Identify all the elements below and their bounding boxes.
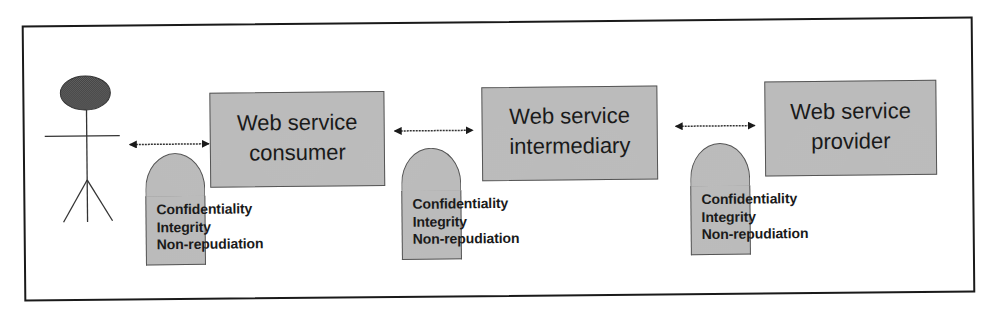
security-shield-consumer: Confidentiality Integrity Non-repudiatio… bbox=[145, 153, 206, 266]
security-properties: Confidentiality Integrity Non-repudiatio… bbox=[701, 190, 808, 244]
diagram-canvas: Web service consumer Web service interme… bbox=[0, 0, 999, 319]
arrow-intermediary-provider bbox=[676, 126, 755, 127]
property-integrity: Integrity bbox=[157, 218, 264, 237]
diagram-stage: Web service consumer Web service interme… bbox=[0, 0, 999, 319]
node-label-line: intermediary bbox=[509, 131, 630, 162]
node-label-line: provider bbox=[790, 126, 911, 157]
shield-icon bbox=[690, 143, 750, 188]
actor-right-leg bbox=[87, 180, 112, 221]
security-properties: Confidentiality Integrity Non-repudiatio… bbox=[412, 195, 519, 249]
actor-body bbox=[87, 110, 88, 222]
security-shield-provider: Confidentiality Integrity Non-repudiatio… bbox=[690, 143, 751, 256]
property-confidentiality: Confidentiality bbox=[412, 195, 519, 214]
property-confidentiality: Confidentiality bbox=[701, 190, 808, 209]
actor-left-leg bbox=[63, 180, 87, 222]
arrow-consumer-intermediary bbox=[395, 130, 473, 131]
property-integrity: Integrity bbox=[701, 208, 808, 227]
security-properties: Confidentiality Integrity Non-repudiatio… bbox=[156, 200, 263, 254]
property-confidentiality: Confidentiality bbox=[156, 200, 263, 219]
arrow-user-consumer bbox=[130, 144, 209, 145]
node-web-service-intermediary: Web service intermediary bbox=[481, 85, 658, 181]
actor-head bbox=[60, 76, 110, 110]
node-label-line: consumer bbox=[237, 137, 358, 168]
node-web-service-provider: Web service provider bbox=[764, 80, 937, 177]
node-web-service-consumer: Web service consumer bbox=[209, 91, 385, 188]
security-shield-intermediary: Confidentiality Integrity Non-repudiatio… bbox=[401, 147, 462, 260]
actor-arms bbox=[45, 136, 120, 137]
property-non-repudiation: Non-repudiation bbox=[413, 230, 520, 249]
property-non-repudiation: Non-repudiation bbox=[157, 235, 264, 254]
property-non-repudiation: Non-repudiation bbox=[702, 225, 809, 244]
shield-icon bbox=[145, 153, 205, 198]
stick-figure-icon bbox=[44, 76, 120, 223]
node-label-line: Web service bbox=[790, 96, 911, 127]
node-label-line: Web service bbox=[509, 101, 630, 132]
node-label-line: Web service bbox=[237, 107, 358, 138]
shield-icon bbox=[401, 147, 461, 192]
property-integrity: Integrity bbox=[413, 212, 520, 231]
